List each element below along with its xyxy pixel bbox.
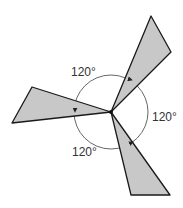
hub — [109, 110, 113, 114]
diagram-canvas — [0, 0, 183, 208]
angle-label-top: 120° — [71, 66, 96, 78]
propeller-diagram: 120° 120° 120° — [0, 0, 183, 208]
angle-label-bottom: 120° — [72, 146, 97, 158]
blade-bottom — [111, 112, 170, 195]
angle-label-right: 120° — [152, 111, 177, 123]
blade-top — [111, 16, 171, 112]
blade-left — [12, 87, 111, 123]
